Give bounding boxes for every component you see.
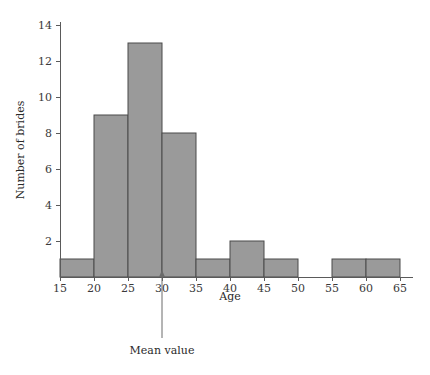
histogram-bar — [264, 259, 298, 277]
y-tick-label: 4 — [45, 199, 52, 212]
histogram-bar — [366, 259, 400, 277]
histogram-bar — [230, 241, 264, 277]
histogram-svg: 1520253035404550556065 2468101214 Mean v… — [0, 0, 430, 375]
x-tick-label: 65 — [393, 282, 407, 295]
y-tick-label: 2 — [45, 235, 52, 248]
bars-group — [60, 43, 400, 277]
histogram-bar — [332, 259, 366, 277]
mean-value-label: Mean value — [130, 344, 195, 357]
y-tick-label: 6 — [45, 163, 52, 176]
y-tick-label: 10 — [38, 91, 52, 104]
x-tick-label: 20 — [87, 282, 101, 295]
x-tick-label: 60 — [359, 282, 373, 295]
histogram-bar — [94, 115, 128, 277]
y-axis-title: Number of brides — [14, 100, 27, 199]
y-tick-label: 12 — [38, 55, 52, 68]
y-tick-label: 8 — [45, 127, 52, 140]
x-tick-label: 45 — [257, 282, 271, 295]
histogram-bar — [196, 259, 230, 277]
x-tick-label: 35 — [189, 282, 203, 295]
mean-annotation-group: Mean value — [130, 270, 195, 357]
x-tick-label: 25 — [121, 282, 135, 295]
x-tick-label: 15 — [53, 282, 67, 295]
ytick-labels-group: 2468101214 — [38, 19, 60, 248]
x-tick-label: 55 — [325, 282, 339, 295]
x-axis-title: Age — [218, 290, 241, 303]
y-tick-label: 14 — [38, 19, 52, 32]
histogram-bar — [128, 43, 162, 277]
x-tick-label: 50 — [291, 282, 305, 295]
histogram-figure: 1520253035404550556065 2468101214 Mean v… — [0, 0, 430, 375]
histogram-bar — [162, 133, 196, 277]
histogram-bar — [60, 259, 94, 277]
